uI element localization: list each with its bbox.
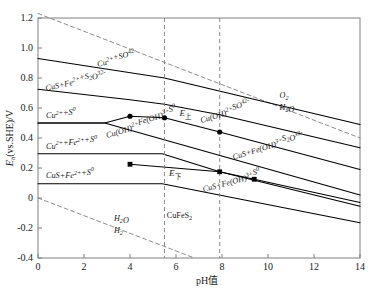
x-tick-label: 10 [263,261,273,272]
y-tick-label: 0.8 [21,72,34,83]
data-point-circle [127,114,132,119]
x-tick-label: 8 [220,261,225,272]
x-tick-label: 6 [174,261,179,272]
y-tick-label: -0.2 [17,222,33,233]
chart-svg: 1.21.00.80.60.40.20-0.2-0.4 02468101214 … [0,0,370,300]
x-tick-label: 0 [36,261,41,272]
x-tick-label: 4 [128,261,133,272]
data-point-circle [217,129,222,134]
data-point-square [217,169,222,174]
x-tick-label: 2 [82,261,87,272]
y-tick-label: -0.4 [17,252,33,263]
annotation-region-cufes2: CuFeS2 [167,211,192,221]
pourbaix-diagram: 1.21.00.80.60.40.20-0.2-0.4 02468101214 … [0,0,370,300]
y-tick-label: 1.2 [21,12,34,23]
y-tick-label: 0 [28,192,33,203]
y-tick-label: 0.4 [21,132,34,143]
y-tick-label: 0.2 [21,162,34,173]
data-point-square [128,162,133,167]
x-tick-label: 14 [355,261,365,272]
x-tick-label: 12 [309,261,319,272]
data-point-square [252,177,257,182]
y-tick-label: 1.0 [21,42,34,53]
x-axis-title: pH值 [196,274,218,286]
y-tick-label: 0.6 [21,102,34,113]
